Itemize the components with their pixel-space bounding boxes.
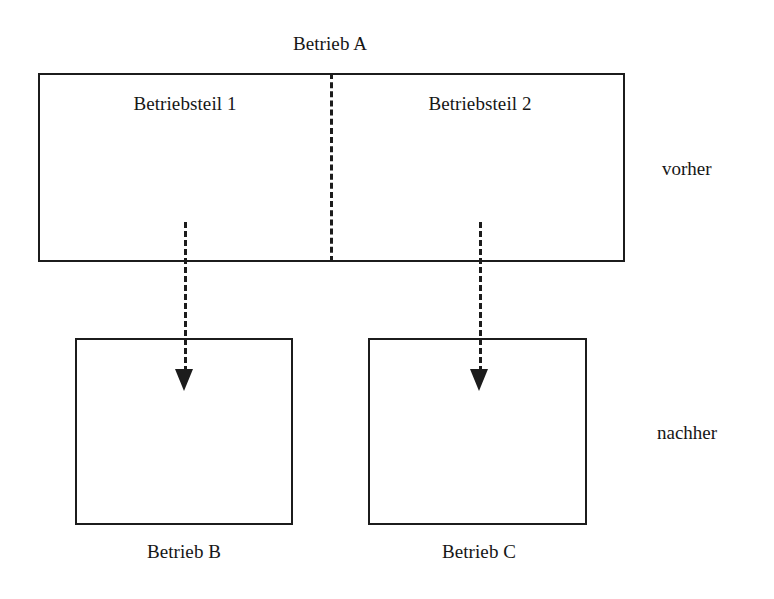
diagram-canvas: Betrieb A Betriebsteil 1 Betriebsteil 2 … [0, 0, 774, 599]
phase-label-after: nachher [657, 423, 717, 442]
betriebsteil-1-label: Betriebsteil 1 [133, 94, 236, 113]
betrieb-c-label: Betrieb C [442, 542, 516, 561]
betriebsteil-2-label: Betriebsteil 2 [428, 94, 531, 113]
top-box-title: Betrieb A [293, 34, 367, 53]
betrieb-b-label: Betrieb B [147, 542, 221, 561]
betrieb-c-box [368, 338, 587, 525]
phase-label-before: vorher [662, 159, 712, 178]
betriebsteil-divider [330, 73, 333, 262]
betrieb-b-box [75, 338, 293, 525]
